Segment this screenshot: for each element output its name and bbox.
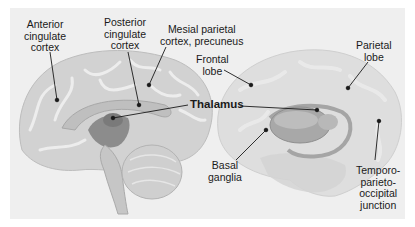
label-frontal-lobe: Frontal lobe — [196, 54, 229, 77]
label-line: lobe — [356, 52, 392, 64]
label-line: Basal — [208, 160, 242, 172]
label-line: lobe — [196, 66, 229, 78]
label-thalamus: Thalamus — [190, 99, 244, 111]
label-line: occipital — [356, 188, 400, 200]
label-line: cortex, precuneus — [160, 36, 243, 48]
label-line: Temporo- — [356, 165, 400, 177]
label-anterior-cingulate-cortex: Anterior cingulate cortex — [24, 19, 66, 54]
label-line: Anterior — [24, 19, 66, 31]
label-mesial-parietal-cortex: Mesial parietal cortex, precuneus — [160, 24, 243, 47]
label-temporo-parieto-occipital-junction: Temporo- parieto- occipital junction — [356, 165, 400, 211]
label-line: Frontal — [196, 54, 229, 66]
label-line: Parietal — [356, 40, 392, 52]
label-line: cortex — [104, 40, 146, 52]
label-parietal-lobe: Parietal lobe — [356, 40, 392, 63]
label-line: junction — [356, 200, 400, 212]
label-line: ganglia — [208, 172, 242, 184]
label-line: Posterior — [104, 17, 146, 29]
label-line: Mesial parietal — [160, 24, 243, 36]
label-line: cortex — [24, 42, 66, 54]
sagittal-brain — [19, 51, 212, 215]
label-posterior-cingulate-cortex: Posterior cingulate cortex — [104, 17, 146, 52]
label-basal-ganglia: Basal ganglia — [208, 160, 242, 183]
